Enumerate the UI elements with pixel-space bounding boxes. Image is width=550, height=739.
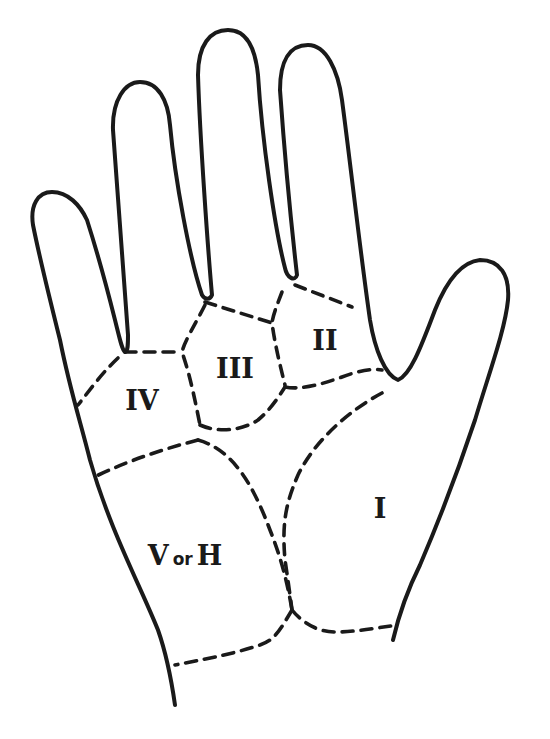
divider-ii-bottom [285,369,382,387]
divider-iii-top [205,302,272,323]
divider-iv-v [92,440,198,478]
divider-iii-ii [272,292,285,385]
hand-outline [32,30,508,705]
divider-iii-bottom [200,387,285,430]
region-label-iii: III [216,355,254,382]
region-label-h: H [197,540,223,571]
hand-diagram [0,0,550,739]
divider-v-right [198,440,292,610]
divider-iv-iii [182,305,205,425]
region-label-v-or-h: VorH [148,542,223,569]
region-label-ii: II [312,327,337,354]
region-label-i: I [374,495,387,522]
region-label-or: or [173,549,193,569]
divider-i-top [284,393,382,610]
region-label-iv: IV [125,387,159,414]
divider-iv-left [78,358,118,405]
region-label-v: V [148,540,169,571]
divider-ii-top [295,285,352,307]
divider-i-bottom [292,610,398,632]
divider-v-bottom [175,610,292,665]
